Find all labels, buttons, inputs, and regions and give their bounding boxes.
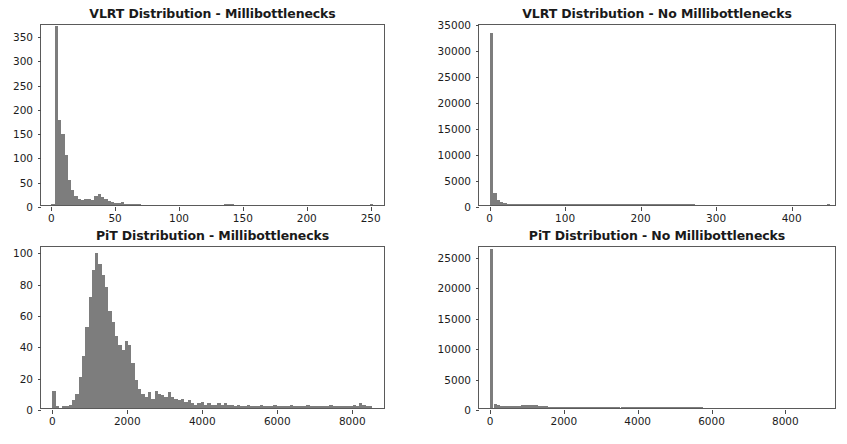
histogram-bar <box>827 204 830 205</box>
y-tick-mark <box>38 110 42 111</box>
x-tick-label: 6000 <box>698 416 725 427</box>
x-tick-label: 0 <box>49 416 56 427</box>
x-tick-label: 250 <box>361 213 381 224</box>
x-tick-label: 8000 <box>772 416 799 427</box>
x-tick-label: 0 <box>48 213 55 224</box>
y-tick-label: 20000 <box>411 283 471 294</box>
histogram-bar <box>490 249 493 408</box>
y-tick-label: 5000 <box>411 176 471 187</box>
y-tick-mark <box>476 380 480 381</box>
y-tick-label: 300 <box>0 56 33 67</box>
x-tick-mark <box>307 207 308 211</box>
y-tick-label: 0 <box>0 405 33 416</box>
histogram-bar <box>56 406 59 408</box>
x-tick-mark <box>564 410 565 414</box>
subplot-title: VLRT Distribution - Millibottlenecks <box>40 6 385 21</box>
x-tick-label: 6000 <box>264 416 291 427</box>
x-tick-mark <box>352 410 353 414</box>
x-tick-mark <box>115 207 116 211</box>
y-tick-label: 100 <box>0 153 33 164</box>
y-tick-mark <box>38 285 42 286</box>
subplot-title: PiT Distribution - No Millibottlenecks <box>478 228 836 243</box>
y-tick-label: 20 <box>0 373 33 384</box>
x-tick-mark <box>243 207 244 211</box>
y-tick-mark <box>38 347 42 348</box>
x-tick-label: 100 <box>555 213 575 224</box>
y-tick-mark <box>476 410 480 411</box>
histogram-bar <box>490 33 493 205</box>
histogram-bar <box>691 204 694 205</box>
x-tick-mark <box>490 207 491 211</box>
y-tick-mark <box>38 379 42 380</box>
y-tick-label: 0 <box>0 202 33 213</box>
x-tick-mark <box>127 410 128 414</box>
axes-frame: 050100150200250300350050100150200250 <box>40 24 385 206</box>
y-tick-label: 15000 <box>411 314 471 325</box>
y-tick-mark <box>38 253 42 254</box>
plot-area <box>479 25 835 205</box>
subplot-title: VLRT Distribution - No Millibottlenecks <box>478 6 836 21</box>
y-tick-mark <box>476 258 480 259</box>
x-tick-mark <box>712 410 713 414</box>
y-tick-mark <box>476 129 480 130</box>
y-tick-label: 15000 <box>411 124 471 135</box>
axes-frame: 02040608010002000400060008000 <box>40 246 385 409</box>
x-tick-mark <box>785 410 786 414</box>
y-tick-mark <box>476 181 480 182</box>
y-tick-mark <box>476 319 480 320</box>
histogram-bars <box>41 25 384 205</box>
subplot-title: PiT Distribution - Millibottlenecks <box>40 228 385 243</box>
y-tick-mark <box>476 207 480 208</box>
x-tick-mark <box>179 207 180 211</box>
y-tick-label: 50 <box>0 177 33 188</box>
x-tick-label: 50 <box>108 213 121 224</box>
y-tick-mark <box>38 183 42 184</box>
y-tick-mark <box>476 103 480 104</box>
y-tick-label: 35000 <box>411 20 471 31</box>
y-tick-label: 40 <box>0 342 33 353</box>
y-tick-label: 25000 <box>411 72 471 83</box>
x-tick-label: 200 <box>297 213 317 224</box>
y-tick-label: 0 <box>411 202 471 213</box>
x-tick-mark <box>52 410 53 414</box>
y-tick-label: 20000 <box>411 98 471 109</box>
y-tick-mark <box>476 51 480 52</box>
y-tick-mark <box>38 134 42 135</box>
x-tick-label: 4000 <box>189 416 216 427</box>
figure-canvas: VLRT Distribution - Millibottlenecks 050… <box>0 0 847 444</box>
y-tick-mark <box>476 288 480 289</box>
y-tick-label: 80 <box>0 279 33 290</box>
y-tick-label: 10000 <box>411 344 471 355</box>
x-tick-mark <box>716 207 717 211</box>
plot-area <box>41 247 384 408</box>
x-tick-mark <box>490 410 491 414</box>
histogram-bar <box>369 406 372 408</box>
x-tick-label: 2000 <box>114 416 141 427</box>
y-tick-label: 25000 <box>411 253 471 264</box>
x-tick-label: 2000 <box>551 416 578 427</box>
x-tick-mark <box>371 207 372 211</box>
axes-frame: 0500010000150002000025000020004000600080… <box>478 246 836 409</box>
histogram-bars <box>41 247 384 408</box>
y-tick-mark <box>38 410 42 411</box>
y-tick-mark <box>476 155 480 156</box>
x-tick-label: 4000 <box>624 416 651 427</box>
x-tick-mark <box>51 207 52 211</box>
plot-area <box>41 25 384 205</box>
y-tick-label: 250 <box>0 80 33 91</box>
y-tick-mark <box>38 86 42 87</box>
x-tick-label: 100 <box>169 213 189 224</box>
y-tick-label: 30000 <box>411 46 471 57</box>
x-tick-label: 0 <box>487 416 494 427</box>
x-tick-mark <box>565 207 566 211</box>
y-tick-label: 200 <box>0 105 33 116</box>
x-tick-label: 8000 <box>339 416 366 427</box>
x-tick-label: 0 <box>486 213 493 224</box>
x-tick-mark <box>638 410 639 414</box>
x-tick-label: 300 <box>706 213 726 224</box>
y-tick-mark <box>476 77 480 78</box>
histogram-bars <box>479 247 835 408</box>
histogram-bar <box>370 204 373 205</box>
y-tick-label: 0 <box>411 405 471 416</box>
histogram-bar <box>231 204 234 205</box>
